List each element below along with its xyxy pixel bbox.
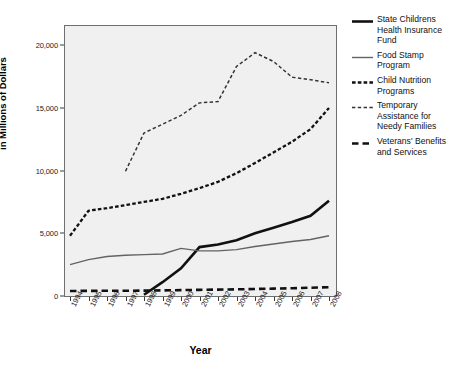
legend-item[interactable]: Child Nutrition Programs	[352, 75, 448, 96]
chart-legend: State Childrens Health Insurance FundFoo…	[352, 14, 448, 161]
series-line	[144, 201, 329, 295]
series-line	[126, 53, 330, 172]
series-line	[70, 287, 329, 291]
series-line	[70, 236, 329, 265]
legend-label: Child Nutrition Programs	[377, 75, 448, 96]
legend-label: Temporary Assistance for Needy Families	[377, 100, 448, 132]
solid-thick-line-icon	[352, 14, 373, 24]
legend-label: Food Stamp Program	[377, 50, 448, 71]
dashed-fine-line-icon	[352, 100, 373, 110]
line-chart: 05,00010,00015,00020,000 in Millions of …	[0, 0, 449, 371]
legend-item[interactable]: Veterans' Benefits and Services	[352, 136, 448, 157]
legend-item[interactable]: Temporary Assistance for Needy Families	[352, 100, 448, 132]
legend-label: State Childrens Health Insurance Fund	[377, 14, 448, 46]
legend-item[interactable]: State Childrens Health Insurance Fund	[352, 14, 448, 46]
legend-item[interactable]: Food Stamp Program	[352, 50, 448, 71]
series-line	[70, 108, 329, 236]
legend-label: Veterans' Benefits and Services	[377, 136, 448, 157]
dashed-bold-line-icon	[352, 136, 373, 146]
solid-thin-line-icon	[352, 50, 373, 60]
dashed-medium-line-icon	[352, 75, 373, 85]
